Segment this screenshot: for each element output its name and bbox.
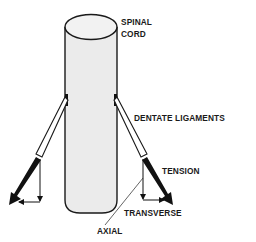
dentate-ligament-right	[114, 94, 147, 157]
spinal-cord	[65, 15, 117, 214]
label-dentate-ligaments: DENTATE LIGAMENTS	[134, 113, 225, 123]
tension-arrow-left	[9, 157, 41, 205]
tension-arrow-right	[142, 157, 173, 205]
spinal-cord-top	[65, 15, 117, 40]
label-tension: TENSION	[162, 166, 200, 176]
label-cord: CORD	[121, 29, 146, 39]
label-axial: AXIAL	[97, 226, 122, 236]
label-transverse: TRANSVERSE	[124, 208, 182, 218]
label-spinal: SPINAL	[121, 17, 152, 27]
dentate-ligament-left	[36, 94, 68, 157]
